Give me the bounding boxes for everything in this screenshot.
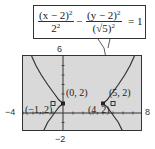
x-term-numerator: (x − 2)2 [38,9,74,22]
equation-callout: (x − 2)2 22 − (y − 2)2 (√5)2 = 1 [33,5,146,39]
ymin-label: −2 [55,135,65,144]
x-term-denominator: 22 [38,22,74,34]
ymax-label: 6 [57,45,62,54]
y-term-numerator: (y − 2)2 [86,9,122,22]
xmin-label: −4 [5,108,15,117]
fraction-y-term: (y − 2)2 (√5)2 [86,9,122,34]
y-term-denominator: (√5)2 [86,22,122,34]
hyperbola-left-branch [32,56,63,131]
minus-sign: − [76,15,82,27]
xmax-label: 8 [145,108,150,117]
point-label-neg1-2: (−1, 2) [25,105,52,115]
fraction-x-term: (x − 2)2 22 [38,9,74,34]
vertex-marker-0-2 [61,102,65,106]
point-label-0-2: (0, 2) [66,88,88,98]
point-label-5-2: (5, 2) [109,88,131,98]
equals-one: = 1 [128,15,142,27]
focus-marker-5-2 [111,102,115,106]
graph-screen: (0, 2) (4, 2) (−1, 2) (5, 2) [22,55,142,131]
point-label-4-2: (4, 2) [88,105,110,115]
